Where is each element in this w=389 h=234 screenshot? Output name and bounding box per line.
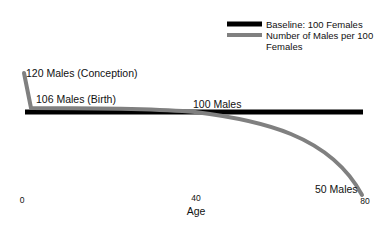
males-curve (24, 73, 362, 195)
annotation-age40: 100 Males (193, 98, 241, 110)
x-tick-40: 40 (191, 193, 201, 203)
annotation-birth: 106 Males (Birth) (36, 93, 116, 105)
chart-canvas: Baseline: 100 Females Number of Males pe… (0, 0, 389, 234)
legend-baseline-label: Baseline: 100 Females (266, 19, 363, 30)
legend: Baseline: 100 Females Number of Males pe… (227, 19, 373, 52)
annotation-age80: 50 Males (315, 183, 358, 195)
x-tick-80: 80 (360, 196, 370, 206)
annotation-conception: 120 Males (Conception) (26, 67, 137, 79)
legend-males-label-line1: Number of Males per 100 (266, 30, 373, 41)
legend-males-label-line2: Females (266, 41, 303, 52)
x-axis-label: Age (187, 205, 206, 217)
x-tick-0: 0 (20, 195, 25, 205)
